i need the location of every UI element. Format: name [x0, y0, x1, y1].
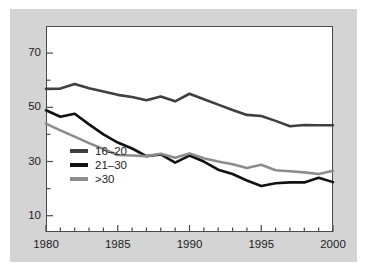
plot-area: 16–2021–30>30 [46, 26, 333, 232]
x-tick-label: 1985 [95, 239, 141, 251]
y-tick-label: 70 [11, 47, 41, 59]
legend-label: 16–20 [95, 145, 127, 157]
legend-label: 21–30 [95, 159, 127, 171]
y-tick-label: 30 [11, 156, 41, 168]
legend-swatch-icon [70, 177, 88, 181]
chart-legend: 16–2021–30>30 [70, 144, 156, 186]
legend-label: >30 [95, 173, 115, 185]
x-tick-label: 1980 [23, 239, 69, 251]
legend-item: 21–30 [70, 158, 156, 172]
x-tick-label: 1995 [238, 239, 284, 251]
y-tick-label: 50 [11, 101, 41, 113]
series-lines [46, 26, 333, 232]
legend-item: 16–20 [70, 144, 156, 158]
x-tick-label: 2000 [310, 239, 356, 251]
legend-item: >30 [70, 172, 156, 186]
y-tick-label: 10 [11, 210, 41, 222]
x-tick-label: 1990 [167, 239, 213, 251]
series-line-1620 [46, 84, 333, 126]
legend-swatch-icon [70, 149, 88, 153]
legend-swatch-icon [70, 163, 88, 167]
figure-panel: 16–2021–30>30 70503010 19801985199019952… [10, 9, 357, 262]
